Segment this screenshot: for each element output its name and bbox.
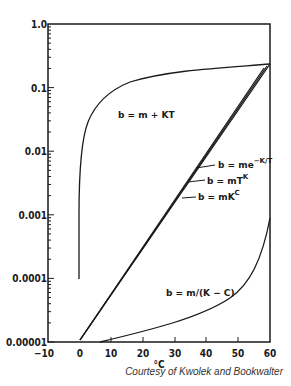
svg-text:0.00001: 0.00001 — [6, 337, 47, 348]
svg-text:1.0: 1.0 — [31, 19, 47, 30]
leader-kc — [182, 197, 196, 198]
svg-text:0.001: 0.001 — [19, 210, 47, 221]
svg-text:60: 60 — [264, 348, 277, 359]
svg-text:0.1: 0.1 — [31, 83, 47, 94]
label-inverse: b = m/(K − C) — [166, 288, 235, 298]
svg-text:50: 50 — [232, 348, 245, 359]
svg-text:40: 40 — [200, 348, 213, 359]
svg-text:10: 10 — [105, 348, 118, 359]
y-tick-labels: 1.0 0.1 0.01 0.001 0.0001 0.00001 — [6, 19, 47, 348]
curve-inverse — [100, 218, 270, 342]
svg-text:30: 30 — [169, 348, 182, 359]
x-tick-labels: −10 0 10 20 30 40 50 60 — [34, 348, 276, 359]
label-m-plus-kt: b = m + KT — [118, 110, 175, 120]
curve-m-plus-kt — [79, 64, 270, 279]
image-credit: Courtesy of Kwolek and Bookwalter — [125, 366, 283, 377]
svg-text:0: 0 — [77, 348, 83, 359]
svg-text:20: 20 — [137, 348, 150, 359]
curve-kc — [80, 68, 264, 340]
svg-text:0.0001: 0.0001 — [12, 273, 47, 284]
log-plot: 1.0 0.1 0.01 0.001 0.0001 0.00001 −10 0 … — [0, 0, 291, 386]
svg-text:−10: −10 — [34, 348, 54, 359]
svg-text:0.01: 0.01 — [25, 146, 47, 157]
label-exp: b = me−K/T — [218, 157, 273, 170]
y-axis-ticks — [48, 27, 54, 342]
label-pow: b = mTK — [207, 173, 249, 186]
label-kc: b = mKC — [198, 189, 240, 202]
